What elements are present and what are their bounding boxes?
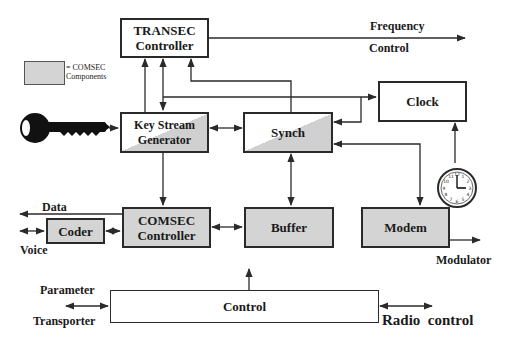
buffer-label: Buffer <box>271 220 307 235</box>
buffer-block: Buffer <box>244 207 334 248</box>
legend-line1: = COMSEC <box>66 63 106 72</box>
transec-line1: TRANSEC <box>133 23 195 38</box>
modulator-label: Modulator <box>436 253 491 268</box>
comsec-controller-block: COMSEC Controller <box>122 207 211 248</box>
svg-text:3: 3 <box>469 186 472 191</box>
frequency-label: Frequency <box>370 19 424 34</box>
transec-line2: Controller <box>135 38 193 53</box>
clock-block: Clock <box>378 81 467 122</box>
svg-text:6: 6 <box>456 199 459 204</box>
svg-text:1: 1 <box>462 174 465 179</box>
parameter-label: Parameter <box>40 283 95 298</box>
radio-control-label: Radio control <box>382 312 473 329</box>
control-block: Control <box>110 290 379 323</box>
svg-text:2: 2 <box>467 179 470 184</box>
comsec-line1: COMSEC <box>138 213 195 228</box>
transec-controller-block: TRANSEC Controller <box>120 18 209 58</box>
svg-text:4: 4 <box>467 192 470 197</box>
svg-text:11: 11 <box>448 174 454 179</box>
comsec-line2: Controller <box>137 228 195 243</box>
clock-label: Clock <box>406 94 439 109</box>
svg-text:5: 5 <box>462 197 465 202</box>
svg-text:7: 7 <box>450 197 453 202</box>
key-icon <box>20 113 110 143</box>
keystream-line2: Generator <box>138 133 191 148</box>
synch-label: Synch <box>271 125 305 140</box>
keystream-generator-block: Key Stream Generator <box>120 112 209 153</box>
coder-label: Coder <box>58 224 93 239</box>
legend-text: = COMSEC Components <box>66 63 106 81</box>
keystream-line1: Key Stream <box>134 118 195 133</box>
synch-block: Synch <box>243 112 333 153</box>
coder-block: Coder <box>46 218 105 244</box>
data-label: Data <box>42 200 67 215</box>
frequency-control-label: Control <box>369 41 409 56</box>
modem-label: Modem <box>384 220 427 235</box>
svg-text:10: 10 <box>443 179 449 184</box>
legend-swatch <box>24 61 65 85</box>
modem-block: Modem <box>361 207 450 248</box>
control-label: Control <box>223 299 266 314</box>
svg-text:8: 8 <box>445 192 448 197</box>
voice-label: Voice <box>20 243 48 258</box>
svg-text:9: 9 <box>443 186 446 191</box>
legend-line2: Components <box>66 72 106 81</box>
transporter-label: Transporter <box>33 314 95 329</box>
clock-icon: 12 1 2 3 4 5 6 7 8 9 10 11 <box>438 169 476 207</box>
